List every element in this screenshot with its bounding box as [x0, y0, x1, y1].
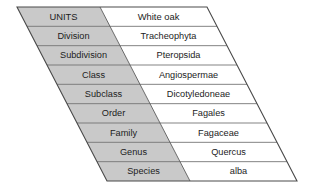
value-label: Tracheophyta [141, 31, 198, 41]
unit-label: Family [110, 128, 137, 138]
unit-label: Division [57, 31, 89, 41]
value-label: Angiospermae [159, 70, 218, 80]
taxonomy-parallelogram-svg: UNITSWhite oakDivisionTracheophytaSubdiv… [0, 0, 328, 189]
value-label: Dicotyledoneae [167, 89, 230, 99]
unit-label: Subdivision [60, 50, 107, 60]
unit-label: Order [102, 108, 126, 118]
taxonomy-diagram: UNITSWhite oakDivisionTracheophytaSubdiv… [0, 0, 328, 189]
value-label: Pteropsida [157, 50, 202, 60]
units-column-header: UNITS [49, 11, 77, 22]
unit-label: Genus [120, 147, 147, 157]
value-label: Fagaceae [198, 128, 239, 138]
value-column-header: White oak [138, 11, 180, 22]
value-label: Quercus [211, 147, 246, 157]
unit-label: Species [127, 166, 160, 176]
unit-label: Class [82, 70, 105, 80]
unit-label: Subclass [85, 89, 123, 99]
value-label: alba [230, 166, 248, 176]
value-label: Fagales [192, 108, 225, 118]
